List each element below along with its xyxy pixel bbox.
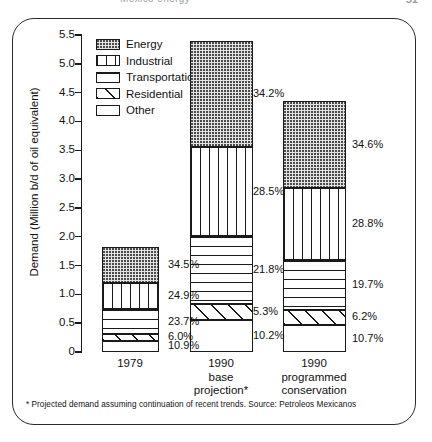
- chart-footnote: * Projected demand assuming continuation…: [26, 400, 356, 409]
- page-number: 51: [406, 0, 418, 5]
- figure-frame: [12, 18, 416, 425]
- page-header: Mexico energy 51: [0, 0, 432, 14]
- page-header-title: Mexico energy: [120, 0, 190, 4]
